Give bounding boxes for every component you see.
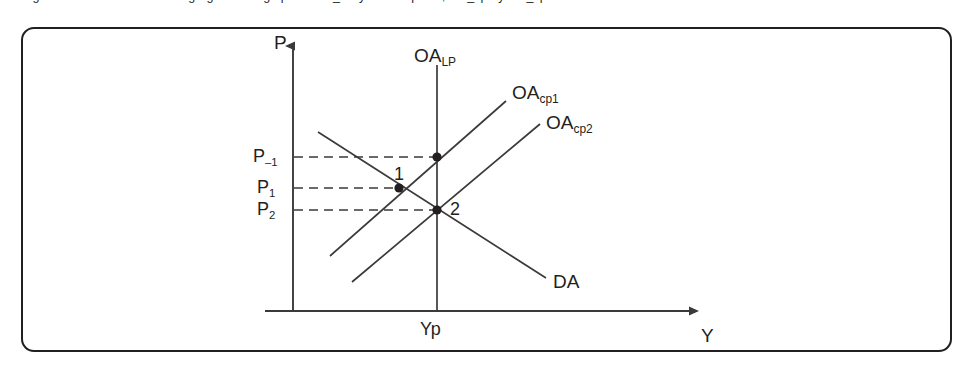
curve-label-oa-cp2-main: OA [546,112,573,133]
equilibrium-label-2: 2 [450,200,460,218]
curve-label-oa-cp1: OAcp1 [512,83,559,102]
price-label-p-2: P2 [257,200,275,218]
figure-caption-text: Figura 20.4 Curva de oferta agregada a l… [22,0,952,3]
curve-label-oa-cp2-sub: cp2 [573,122,592,136]
price-label-p-1-main: P [257,177,269,197]
curve-label-oa-lp-sub: LP [441,55,456,69]
price-label-p-minus-1-sub: –1 [265,156,278,168]
curve-label-oa-lp: OALP [414,46,456,65]
equilibrium-label-1: 1 [394,165,404,183]
price-label-p-1: P1 [257,178,275,196]
price-label-p-minus-1-main: P [253,146,265,166]
price-label-p-2-sub: 2 [269,209,275,221]
curve-label-oa-cp1-main: OA [512,82,539,103]
output-axis-label: Y [701,326,714,345]
price-label-p-minus-1: P–1 [253,147,278,165]
curve-label-oa-cp1-sub: cp1 [539,92,558,106]
curve-label-oa-cp2: OAcp2 [546,113,593,132]
figure-page: Figura 20.4 Curva de oferta agregada a l… [0,0,970,374]
output-tick-label-yp: Yp [420,320,441,338]
price-axis-label: P [274,33,287,52]
curve-label-oa-lp-main: OA [414,45,441,66]
figure-caption-strip: Figura 20.4 Curva de oferta agregada a l… [0,0,970,15]
curve-label-da: DA [553,272,579,291]
price-label-p-2-main: P [257,199,269,219]
price-label-p-1-sub: 1 [269,187,275,199]
figure-frame-box [21,27,952,352]
